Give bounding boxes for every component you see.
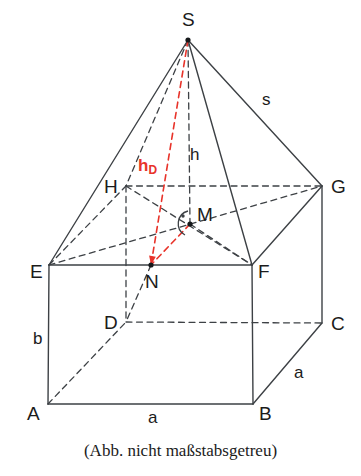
dashed-edge-group	[48, 40, 322, 404]
vertex-label-f: F	[258, 262, 270, 281]
vertex-label-d: D	[104, 313, 118, 332]
slant-edge-label: s	[262, 91, 271, 108]
height-label: h	[190, 146, 199, 163]
apothem-label-subscript: D	[148, 163, 157, 177]
vertex-label-a: A	[27, 404, 40, 423]
edge-E-H	[49, 186, 126, 265]
right-angle-dot	[181, 214, 184, 217]
apothem-label-text: h	[138, 156, 148, 175]
vertex-label-n: N	[145, 272, 159, 291]
vertex-label-s: S	[182, 10, 195, 29]
vertex-label-c: C	[331, 314, 345, 333]
edge-D-C	[126, 322, 322, 323]
height-b-label: b	[33, 330, 42, 347]
solid-edge-group	[48, 40, 322, 404]
figure-caption: (Abb. nicht maßstabsgetreu)	[0, 441, 361, 461]
edge-E-A	[48, 265, 49, 404]
vertex-dot-group	[148, 37, 192, 267]
edge-S-E	[49, 40, 188, 265]
geometry-canvas	[0, 0, 361, 476]
apothem-label: hD	[138, 157, 157, 174]
vertex-label-e: E	[30, 262, 43, 281]
edge-B-C	[253, 323, 322, 404]
edge-F-G	[252, 186, 322, 265]
edge-A-D	[48, 322, 126, 404]
vertex-label-m: M	[197, 205, 213, 224]
base-width-label: a	[148, 409, 157, 426]
vertex-label-g: G	[331, 177, 346, 196]
base-depth-label: a	[294, 364, 303, 381]
vertex-dot-n	[148, 262, 153, 267]
red-edge-group	[149, 40, 190, 265]
geometry-figure: SHGMEFNDCABshhDaab (Abb. nicht maßstabsg…	[0, 0, 361, 476]
vertex-dot-s	[185, 37, 190, 42]
edge-F-B	[252, 265, 253, 404]
vertex-dot-m	[187, 221, 192, 226]
vertex-label-h: H	[104, 177, 118, 196]
edge-S-M	[188, 40, 190, 224]
vertex-label-b: B	[259, 404, 272, 423]
